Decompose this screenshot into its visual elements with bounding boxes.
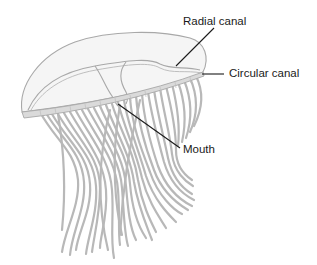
label-mouth: Mouth xyxy=(183,144,215,156)
bell xyxy=(22,32,207,118)
label-circular-canal: Circular canal xyxy=(229,68,299,80)
label-radial-canal: Radial canal xyxy=(183,16,246,28)
jellyfish-diagram: Radial canal Circular canal Mouth xyxy=(0,0,317,265)
jellyfish-illustration xyxy=(0,0,317,265)
